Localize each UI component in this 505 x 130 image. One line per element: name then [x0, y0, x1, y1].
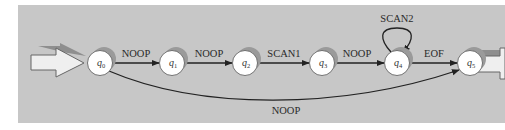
edge-label-q4-loop: SCAN2	[380, 13, 413, 24]
edge-label-q0-q1: NOOP	[122, 48, 151, 59]
edge-label-q3-q4: NOOP	[343, 48, 372, 59]
edge-label-q0-q5: NOOP	[272, 105, 301, 116]
state-machine-diagram: NOOP NOOP SCAN1 NOOP SCAN2 EOF NOOP q0 q…	[0, 0, 505, 130]
edge-label-q1-q2: NOOP	[195, 48, 224, 59]
edge-label-q2-q3: SCAN1	[267, 48, 300, 59]
edge-label-q4-q5: EOF	[424, 48, 444, 59]
